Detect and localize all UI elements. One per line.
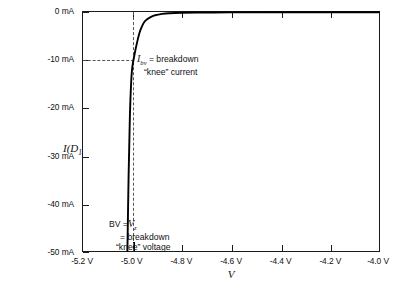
x-tick-label-5: -4.2 V <box>319 256 341 266</box>
y-tick-label-2: -20 mA <box>22 102 74 112</box>
x-tick-label-2: -4.8 V <box>170 256 192 266</box>
y-tick-label-1: -10 mA <box>22 54 74 64</box>
plot-area: Ibv = breakdown “knee” current BV =Vz = … <box>82 11 380 252</box>
y-tick-label-5: -50 mA <box>22 247 74 257</box>
annotation-ibv-line2: “knee” current <box>137 67 198 77</box>
x-tick-label-3: -4.6 V <box>220 256 242 266</box>
y-tick-label-0: 0 mA <box>22 6 74 16</box>
iv-curve <box>83 12 379 251</box>
y-tick-mark-5 <box>83 252 89 253</box>
annotation-ibv-line1: = breakdown <box>147 54 199 64</box>
x-tick-label-0: -5.2 V <box>71 256 93 266</box>
annotation-bv-line2: = breakdown <box>109 232 170 242</box>
annotation-bv-line1: BV = <box>109 219 128 229</box>
x-axis-title: V <box>228 268 235 280</box>
chart-canvas: 0 mA -10 mA -20 mA -30 mA -40 mA -50 mA … <box>0 0 401 289</box>
x-tick-label-1: -5.0 V <box>121 256 143 266</box>
annotation-breakdown-knee-voltage: BV =Vz = breakdown “knee” voltage <box>109 218 170 253</box>
annotation-bv-line3: “knee” voltage <box>109 242 170 252</box>
annotation-breakdown-knee-current: Ibv = breakdown “knee” current <box>137 53 198 77</box>
x-tick-label-6: -4.0 V <box>367 256 389 266</box>
y-tick-label-4: -40 mA <box>22 199 74 209</box>
annotation-bv-subscript: z <box>134 224 137 231</box>
x-tick-label-4: -4.4 V <box>270 256 292 266</box>
iv-curve-path <box>127 12 379 251</box>
